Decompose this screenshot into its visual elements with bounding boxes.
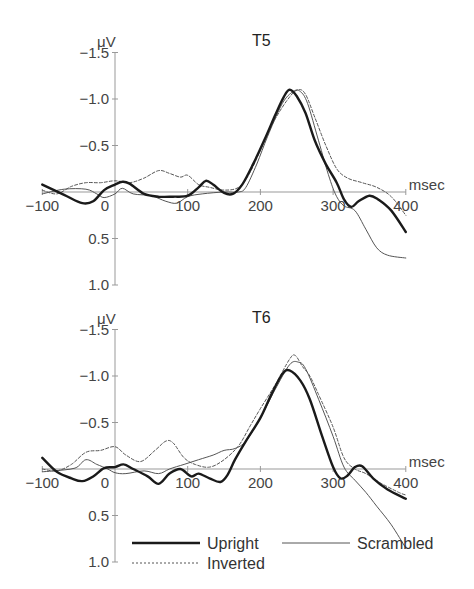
y-tick-label: 1.0 [88, 276, 109, 293]
y-unit-label: μV [97, 33, 116, 50]
y-tick-label: −0.5 [79, 137, 109, 154]
panel-t6: −1.5−1.0−0.50.51.0−1000100200300400μVmse… [25, 309, 445, 571]
x-tick-label: 400 [393, 474, 418, 491]
legend: UprightScrambledInverted [132, 535, 433, 572]
legend-label-upright: Upright [207, 535, 259, 552]
series-upright [42, 90, 406, 232]
legend-label-scrambled: Scrambled [357, 535, 433, 552]
erp-figure: −1.5−1.0−0.50.51.0−1000100200300400μVmse… [0, 0, 474, 589]
panel-title: T5 [252, 32, 271, 49]
y-tick-label: 0.5 [88, 230, 109, 247]
y-tick-label: −1.0 [79, 367, 109, 384]
y-unit-label: μV [97, 310, 116, 327]
panel-title: T6 [252, 309, 271, 326]
x-tick-label: 300 [321, 197, 346, 214]
x-unit-label: msec [409, 453, 445, 470]
x-tick-label: 0 [101, 474, 109, 491]
panel-t5: −1.5−1.0−0.50.51.0−1000100200300400μVmse… [25, 32, 445, 294]
x-tick-label: 300 [321, 474, 346, 491]
y-tick-label: 1.0 [88, 553, 109, 570]
x-tick-label: 100 [175, 474, 200, 491]
x-tick-label: 200 [248, 197, 273, 214]
x-tick-label: −100 [25, 474, 59, 491]
x-unit-label: msec [409, 176, 445, 193]
x-tick-label: −100 [25, 197, 59, 214]
legend-label-inverted: Inverted [207, 555, 265, 572]
x-tick-label: 0 [101, 197, 109, 214]
x-tick-label: 100 [175, 197, 200, 214]
y-tick-label: −0.5 [79, 414, 109, 431]
y-tick-label: −1.0 [79, 90, 109, 107]
series-upright [42, 370, 406, 499]
x-tick-label: 200 [248, 474, 273, 491]
x-tick-label: 400 [393, 197, 418, 214]
y-tick-label: 0.5 [88, 507, 109, 524]
